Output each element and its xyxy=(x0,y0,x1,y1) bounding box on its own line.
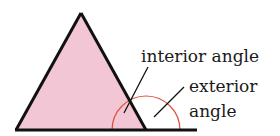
diagram-graphic xyxy=(0,0,280,136)
exterior-angle-label-line1: exterior xyxy=(189,76,257,96)
interior-leader-line xyxy=(124,67,148,113)
angle-diagram: interior angle exterior angle xyxy=(0,0,280,136)
triangle xyxy=(16,13,146,130)
exterior-angle-label-line2: angle xyxy=(189,101,236,121)
interior-angle-label: interior angle xyxy=(141,46,259,66)
exterior-leader-line xyxy=(154,87,184,117)
